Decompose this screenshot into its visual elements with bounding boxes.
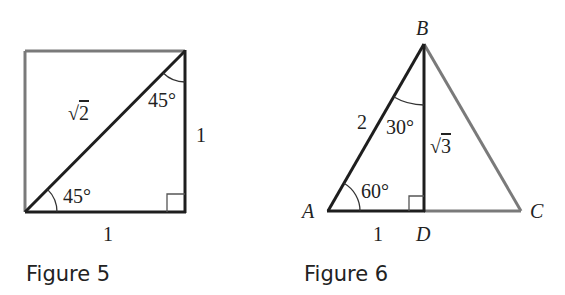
vertex-B-label: B	[416, 17, 428, 39]
angle-arc-B	[394, 97, 425, 105]
angle-arc-top	[163, 73, 185, 82]
vertex-C-label: C	[530, 200, 544, 222]
right-angle-marker	[167, 194, 185, 212]
angle-top-label: 45°	[148, 89, 176, 111]
figure-5: √2 45° 45° 1 1 Figure 5	[25, 50, 206, 286]
angle-arc-A	[344, 183, 360, 211]
side-AD-label: 1	[373, 223, 383, 245]
side-bottom-label: 1	[103, 223, 113, 245]
figure-canvas: √2 45° 45° 1 1 Figure 5 B A C D 2 30° √3…	[0, 0, 565, 295]
side-right-label: 1	[196, 124, 206, 146]
vertex-D-label: D	[415, 223, 431, 245]
figure-5-caption: Figure 5	[26, 262, 110, 286]
vertex-A-label: A	[300, 200, 315, 222]
right-angle-marker	[409, 196, 424, 211]
square-diagonal	[25, 51, 185, 212]
diagonal-label: √2	[68, 102, 89, 124]
figure-6-caption: Figure 6	[304, 262, 388, 286]
angle-bottom-label: 45°	[63, 185, 91, 207]
side-BC	[424, 44, 521, 211]
side-AB-label: 2	[357, 111, 367, 133]
angle-arc-bottom	[48, 189, 58, 212]
altitude-label: √3	[430, 135, 451, 157]
figure-6: B A C D 2 30° √3 60° 1 Figure 6	[300, 17, 544, 286]
angle-B-label: 30°	[386, 116, 414, 138]
angle-A-label: 60°	[361, 180, 389, 202]
